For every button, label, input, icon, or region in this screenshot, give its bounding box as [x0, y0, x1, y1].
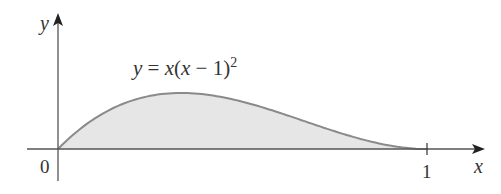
curve-equation: y = x(x − 1)2	[131, 55, 237, 80]
x-axis-label: x	[473, 155, 483, 177]
area-diagram: y x 0 1 y = x(x − 1)2	[0, 0, 501, 194]
tick-label-one: 1	[422, 161, 432, 182]
origin-label: 0	[40, 156, 50, 177]
y-axis-label: y	[38, 12, 49, 35]
